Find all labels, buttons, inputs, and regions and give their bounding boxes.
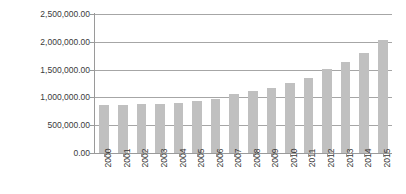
- bar-slot: [373, 14, 392, 153]
- x-axis-label-slot: 2002: [132, 158, 151, 194]
- y-axis-tick-label: 2,000,000.00: [40, 37, 90, 47]
- bar-slot: [114, 14, 133, 153]
- x-axis-label-slot: 2001: [114, 158, 133, 194]
- bar-slot: [355, 14, 374, 153]
- x-axis-label-slot: 2015: [373, 158, 392, 194]
- bar-slot: [95, 14, 114, 153]
- bar: [192, 101, 202, 153]
- bar: [99, 105, 109, 153]
- bar: [229, 94, 239, 153]
- x-axis-tick-label: 2011: [307, 149, 317, 167]
- x-axis-label-slot: 2005: [188, 158, 207, 194]
- x-axis-tick-label: 2003: [159, 149, 169, 168]
- bar: [118, 105, 128, 153]
- x-axis-label-slot: 2014: [355, 158, 374, 194]
- bar-slot: [299, 14, 318, 153]
- bar: [267, 88, 277, 153]
- x-axis-label-slot: 2008: [244, 158, 263, 194]
- bar: [211, 99, 221, 153]
- y-axis-tick-label: 1,500,000.00: [40, 65, 90, 75]
- bar-slot: [151, 14, 170, 153]
- bar: [248, 91, 258, 153]
- bar: [304, 78, 314, 153]
- bar: [174, 103, 184, 153]
- x-axis-tick-label: 2009: [270, 149, 280, 168]
- bar-slot: [336, 14, 355, 153]
- x-axis-label-slot: 2000: [95, 158, 114, 194]
- bar-chart: 0.00500,000.001,000,000.001,500,000.002,…: [0, 0, 406, 194]
- y-axis: 0.00500,000.001,000,000.001,500,000.002,…: [0, 0, 90, 194]
- bar: [137, 104, 147, 153]
- bar-slot: [206, 14, 225, 153]
- bar: [378, 40, 388, 153]
- y-axis-tick-label: 500,000.00: [47, 120, 90, 130]
- bar-slot: [188, 14, 207, 153]
- x-axis-label-slot: 2006: [206, 158, 225, 194]
- x-axis-label-slot: 2010: [281, 158, 300, 194]
- x-axis-label-slot: 2004: [169, 158, 188, 194]
- x-axis-label-slot: 2012: [318, 158, 337, 194]
- bar-slot: [169, 14, 188, 153]
- x-axis-tick-label: 2005: [196, 149, 206, 168]
- x-axis-label-slot: 2003: [151, 158, 170, 194]
- x-axis-label-slot: 2011: [299, 158, 318, 194]
- x-axis-label-slot: 2013: [336, 158, 355, 194]
- x-axis-label-slot: 2007: [225, 158, 244, 194]
- bar: [322, 69, 332, 154]
- bar-slot: [262, 14, 281, 153]
- x-axis-tick-label: 2013: [345, 149, 355, 168]
- bar-slot: [281, 14, 300, 153]
- y-axis-tick-label: 0.00: [73, 148, 90, 158]
- y-axis-tick-label: 1,000,000.00: [40, 92, 90, 102]
- x-axis-tick-label: 2014: [363, 149, 373, 168]
- x-axis-tick-label: 2010: [289, 149, 299, 168]
- bar-slot: [318, 14, 337, 153]
- x-axis-tick-label: 2015: [382, 149, 392, 168]
- bar: [155, 104, 165, 153]
- x-axis-tick-label: 2012: [326, 149, 336, 168]
- bar-slot: [244, 14, 263, 153]
- bar: [285, 83, 295, 153]
- bar-slot: [225, 14, 244, 153]
- x-axis-tick-label: 2000: [103, 149, 113, 168]
- x-axis-tick-label: 2004: [178, 149, 188, 168]
- x-axis-label-slot: 2009: [262, 158, 281, 194]
- x-axis-labels: 2000200120022003200420052006200720082009…: [95, 158, 392, 194]
- bar-slot: [132, 14, 151, 153]
- x-axis-tick-label: 2008: [252, 149, 262, 168]
- x-axis-tick-label: 2001: [122, 149, 132, 168]
- x-axis-tick-label: 2002: [140, 149, 150, 168]
- bar: [359, 53, 369, 153]
- bar: [341, 62, 351, 153]
- x-axis-tick-label: 2007: [233, 149, 243, 168]
- y-axis-tick-label: 2,500,000.00: [40, 9, 90, 19]
- x-axis-tick-label: 2006: [215, 149, 225, 168]
- bar-series: [95, 14, 392, 153]
